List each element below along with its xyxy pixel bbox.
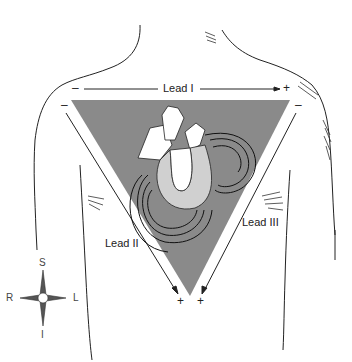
lead-iii-positive-sign: +	[197, 295, 204, 307]
diagram-canvas	[0, 0, 352, 362]
lead-iii-negative-sign: –	[295, 99, 302, 111]
compass-inferior-label: I	[41, 330, 44, 340]
lead-i-positive-sign: +	[283, 82, 290, 94]
lead-ii-label: Lead II	[105, 238, 139, 249]
lead-i-label: Lead I	[163, 83, 194, 94]
lead-iii-label: Lead III	[242, 217, 279, 228]
compass-right-label: R	[6, 293, 13, 303]
lead-ii-positive-sign: +	[177, 295, 184, 307]
compass-rose-icon	[20, 270, 66, 326]
lead-i-negative-sign: –	[72, 82, 79, 94]
compass-superior-label: S	[39, 258, 46, 268]
lead-ii-negative-sign: –	[61, 99, 68, 111]
compass-left-label: L	[73, 293, 79, 303]
